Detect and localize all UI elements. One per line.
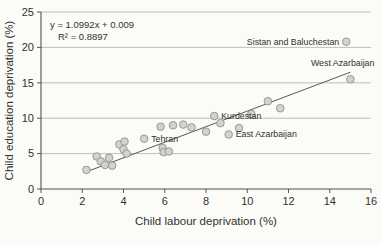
x-tick-label: 12	[282, 195, 294, 207]
data-point-east-azarbaijan	[225, 131, 233, 139]
data-point	[123, 150, 131, 158]
data-point	[83, 166, 91, 174]
x-tick-label: 2	[79, 195, 85, 207]
r-squared-value: R² = 0.8897	[58, 31, 108, 42]
data-point	[276, 104, 284, 112]
data-point	[165, 148, 173, 156]
point-label-sistan-and-baluchestan: Sistan and Baluchestan	[247, 37, 340, 47]
y-tick-label: 5	[28, 147, 34, 159]
data-point-sistan-and-baluchestan	[342, 38, 350, 46]
y-tick-label: 25	[22, 6, 34, 18]
x-tick-label: 10	[241, 195, 253, 207]
data-point	[108, 162, 116, 170]
data-point	[157, 123, 165, 131]
x-tick-label: 14	[324, 195, 336, 207]
x-axis-title: Child labour deprivation (%)	[41, 215, 371, 227]
x-tick-label: 4	[120, 195, 126, 207]
point-label-kurdestan: Kurdestan	[221, 111, 261, 121]
y-tick-label: 10	[22, 112, 34, 124]
data-point	[121, 138, 129, 146]
data-point-west-azarbaijan	[347, 75, 355, 83]
y-tick-label: 15	[22, 77, 34, 89]
point-label-tehran: Tehran	[151, 134, 178, 144]
data-point	[101, 161, 109, 169]
x-tick-label: 6	[162, 195, 168, 207]
data-point	[105, 154, 113, 162]
data-point	[202, 128, 210, 136]
data-point	[264, 97, 272, 105]
data-point	[180, 121, 188, 129]
y-axis-title: Child education deprivation (%)	[3, 12, 15, 189]
x-tick-label: 0	[38, 195, 44, 207]
point-label-west-azarbaijan: West Azarbaijan	[311, 58, 375, 68]
data-point-kurdestan	[210, 112, 218, 120]
x-tick-label: 8	[203, 195, 209, 207]
point-label-east-azarbaijan: East Azarbaijan	[236, 129, 297, 139]
scatter-chart-figure: 02468101214160510152025Sistan and Baluch…	[0, 0, 381, 245]
y-tick-label: 20	[22, 41, 34, 53]
x-tick-label: 16	[365, 195, 377, 207]
data-point	[188, 124, 196, 132]
data-point-tehran	[140, 135, 148, 143]
regression-equation: y = 1.0992x + 0.009	[50, 19, 134, 30]
data-point	[169, 121, 177, 129]
y-tick-label: 0	[28, 183, 34, 195]
